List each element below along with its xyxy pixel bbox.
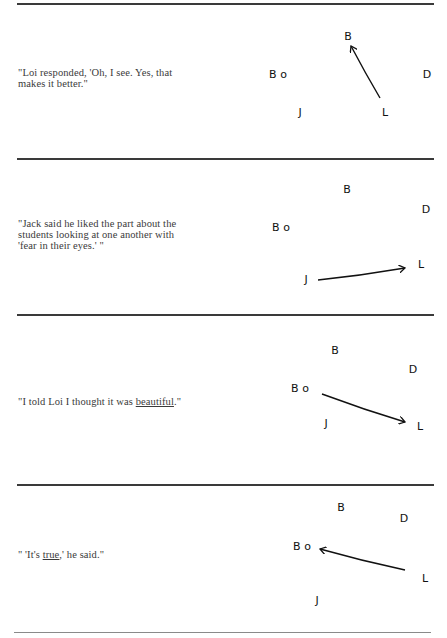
arrow-j-to-l-icon: [318, 268, 405, 280]
participant-d-label: D: [423, 68, 431, 81]
participant-d-label: D: [422, 203, 430, 216]
participant-l-label: L: [417, 420, 424, 433]
section-divider-bottom: [14, 632, 431, 633]
participant-j-label: J: [314, 594, 318, 607]
quote-fragment: " 'It's: [18, 549, 43, 560]
participant-d-label: D: [400, 512, 408, 525]
quote-text: "I told Loi I thought it was beautiful.": [18, 396, 218, 407]
section-divider-1: [17, 158, 434, 160]
participant-b-label: B: [344, 30, 352, 43]
quote-fragment: ,' he said.": [59, 549, 104, 560]
participant-l-label: L: [422, 572, 429, 585]
participant-j-label: J: [303, 273, 307, 286]
participant-bo-label: B o: [291, 382, 309, 395]
quote-text: "Loi responded, 'Oh, I see. Yes, that ma…: [18, 67, 193, 89]
interaction-diagram: BB oDJL: [250, 16, 447, 156]
quote-fragment: "Loi responded, 'Oh, I see. Yes, that ma…: [18, 67, 172, 89]
quote-text: "Jack said he liked the part about the s…: [18, 218, 193, 251]
participant-j-label: J: [297, 106, 301, 119]
emphasized-word: true: [43, 549, 60, 560]
participant-l-label: L: [382, 106, 389, 119]
participant-j-label: J: [323, 417, 327, 430]
quote-fragment: "I told Loi I thought it was: [18, 396, 136, 407]
participant-d-label: D: [409, 363, 417, 376]
participant-b-label: B: [343, 183, 351, 196]
section-divider-top: [17, 3, 434, 5]
arrow-l-to-b-icon: [351, 46, 380, 98]
participant-bo-label: B o: [269, 68, 287, 81]
interaction-diagram: BDB oLJ: [250, 167, 447, 307]
section-divider-2: [17, 314, 434, 316]
interaction-diagram: BDB oLJ: [250, 485, 447, 625]
emphasized-word: beautiful: [136, 396, 174, 407]
participant-l-label: L: [418, 258, 425, 271]
quote-text: " 'It's true,' he said.": [18, 549, 193, 560]
participant-bo-label: B o: [272, 221, 290, 234]
participant-b-label: B: [337, 501, 345, 514]
participant-bo-label: B o: [293, 540, 311, 553]
quote-fragment: "Jack said he liked the part about the s…: [18, 218, 176, 251]
participant-b-label: B: [331, 344, 339, 357]
interaction-diagram: BDB oJL: [250, 325, 447, 465]
quote-fragment: .": [174, 396, 181, 407]
arrow-l-to-bo-icon: [320, 549, 405, 570]
arrow-bo-to-l-icon: [322, 394, 405, 422]
